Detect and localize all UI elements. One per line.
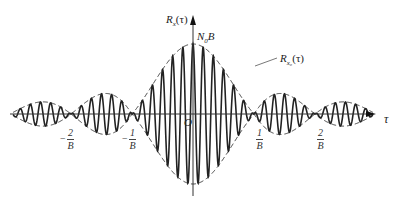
envelope-label-leader bbox=[255, 58, 277, 66]
y-axis-arrow-icon bbox=[190, 15, 196, 25]
peak-label: N0B bbox=[197, 31, 215, 45]
tick-label-2-over-b: 2 B bbox=[317, 128, 324, 151]
tick-label-neg-2-over-b: − 2 B bbox=[67, 128, 74, 151]
x-axis-label: τ bbox=[384, 113, 388, 125]
tick-label-neg-1-over-b: − 1 B bbox=[129, 128, 136, 151]
y-axis-label: Rx(τ) bbox=[166, 14, 188, 28]
origin-label: O bbox=[184, 117, 192, 128]
tick-label-1-over-b: 1 B bbox=[256, 128, 263, 151]
envelope-label: Rx₀(τ) bbox=[280, 53, 304, 67]
